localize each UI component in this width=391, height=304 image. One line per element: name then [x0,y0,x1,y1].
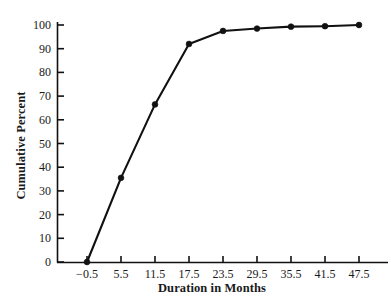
axis-lines [57,22,388,263]
cumulative-percent-line-chart: ............ Cumulative Percent Duration… [0,0,391,304]
data-series-markers [84,22,362,265]
y-axis-ticks [58,25,65,262]
data-series-line [87,25,359,262]
x-axis-ticks [87,256,359,263]
plot-area [0,0,391,304]
